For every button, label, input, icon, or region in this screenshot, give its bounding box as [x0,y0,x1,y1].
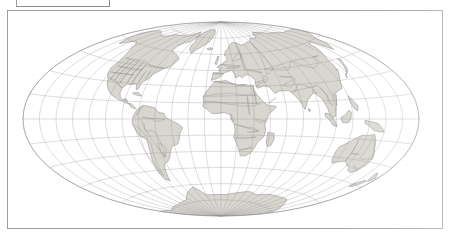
world-map[interactable] [8,11,442,228]
graticule-layer [23,22,419,216]
table-cell-left-edge [16,0,17,7]
figure-frame [7,10,443,229]
map-svg[interactable] [8,11,442,228]
table-cell-box [16,0,110,7]
